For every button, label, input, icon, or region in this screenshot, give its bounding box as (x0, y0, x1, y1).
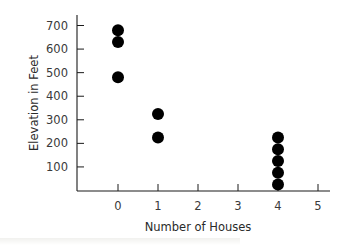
y-axis-title: Elevation in Feet (27, 55, 41, 151)
data-point (152, 131, 164, 143)
x-axis-ticks: 012345 (114, 184, 321, 213)
data-point (112, 71, 124, 83)
y-tick-label: 600 (46, 42, 68, 56)
data-point (272, 167, 284, 179)
scatter-plot: 100200300400500600700 012345 Number of H… (0, 0, 353, 245)
data-point (272, 179, 284, 191)
x-tick-label: 2 (194, 199, 201, 213)
data-point (272, 143, 284, 155)
y-tick-label: 300 (46, 113, 68, 127)
data-point (152, 108, 164, 120)
x-tick-label: 0 (114, 199, 121, 213)
y-tick-label: 500 (46, 66, 68, 80)
x-tick-label: 5 (314, 199, 321, 213)
y-tick-label: 100 (46, 160, 68, 174)
y-tick-label: 200 (46, 136, 68, 150)
data-points (112, 24, 284, 190)
x-tick-label: 1 (154, 199, 161, 213)
x-tick-label: 3 (234, 199, 241, 213)
data-point (112, 36, 124, 48)
y-axis-ticks: 100200300400500600700 (46, 19, 84, 174)
data-point (272, 131, 284, 143)
x-axis-title: Number of Houses (145, 220, 252, 234)
x-tick-label: 4 (274, 199, 281, 213)
data-point (112, 24, 124, 36)
y-tick-label: 400 (46, 89, 68, 103)
y-tick-label: 700 (46, 19, 68, 33)
page-edge-shadow (0, 238, 240, 245)
data-point (272, 155, 284, 167)
